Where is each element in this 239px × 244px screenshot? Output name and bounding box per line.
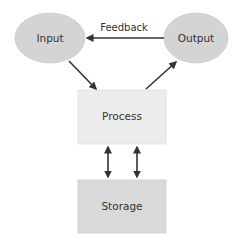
input-to-process-arrow-icon	[69, 61, 96, 89]
process-node: Process	[78, 90, 166, 144]
input-node: Input	[15, 13, 85, 63]
flow-diagram: Input Output Process Storage Feedback	[0, 0, 239, 244]
feedback-edge: Feedback	[87, 22, 164, 38]
process-to-output-arrow-icon	[146, 62, 176, 89]
feedback-label: Feedback	[100, 22, 148, 33]
output-label: Output	[178, 32, 214, 44]
output-node: Output	[164, 13, 228, 63]
storage-node: Storage	[78, 180, 166, 233]
process-label: Process	[102, 110, 142, 122]
storage-label: Storage	[101, 200, 142, 212]
input-label: Input	[36, 32, 63, 44]
